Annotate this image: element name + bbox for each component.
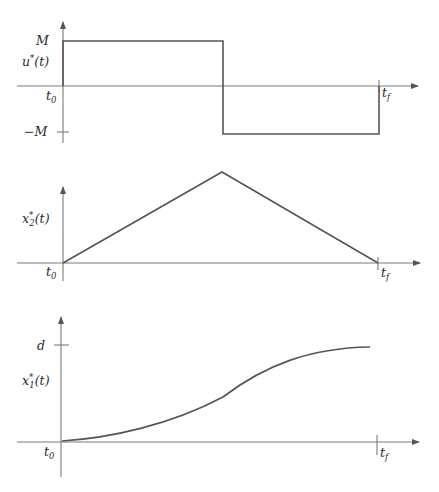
label-m: M	[35, 33, 50, 48]
label-ylabel-x1: x*1(t)	[22, 372, 50, 390]
label-ylabel-x2: x*2(t)	[22, 210, 50, 228]
control-curve	[63, 41, 379, 134]
panel-velocity: x*2(t) t0 tf	[17, 172, 420, 282]
label-d: d	[37, 338, 45, 353]
panel-position: d x*1(t) t0 tf	[17, 317, 419, 477]
label-t0: t0	[44, 444, 55, 461]
optimal-control-figure: M u*(t) t0 −M tf x*2(t) t0 tf d	[0, 0, 439, 492]
label-neg-m: −M	[24, 124, 48, 139]
velocity-curve	[63, 172, 378, 263]
label-tf: tf	[382, 85, 392, 102]
label-ylabel-u: u*(t)	[22, 53, 49, 69]
label-t0: t0	[46, 264, 57, 281]
panel-control: M u*(t) t0 −M tf	[17, 22, 418, 143]
position-curve	[62, 347, 370, 441]
label-tf: tf	[380, 445, 390, 462]
label-tf: tf	[381, 265, 391, 282]
label-t0: t0	[46, 88, 57, 105]
